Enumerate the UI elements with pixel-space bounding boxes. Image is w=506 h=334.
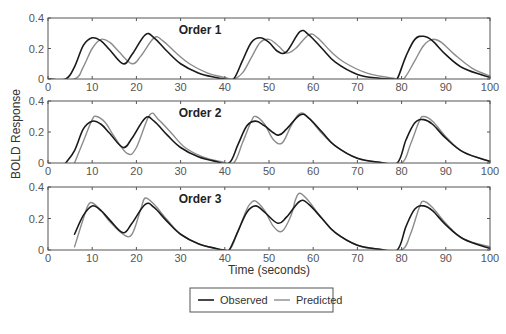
x-tick-label: 100 <box>481 252 499 264</box>
panel-2: 010203040506070809010000.20.4Order 2 <box>29 95 499 177</box>
x-tick-label: 90 <box>440 81 452 93</box>
x-tick-label: 30 <box>174 165 186 177</box>
x-tick-label: 20 <box>130 165 142 177</box>
x-tick-label: 30 <box>174 252 186 264</box>
y-tick-label: 0.2 <box>29 126 44 138</box>
series-predicted <box>48 34 490 80</box>
y-tick-label: 0.2 <box>29 43 44 55</box>
x-tick-label: 90 <box>440 252 452 264</box>
x-tick-label: 20 <box>130 252 142 264</box>
series-observed <box>75 200 490 252</box>
x-tick-label: 10 <box>86 165 98 177</box>
panel-title: Order 2 <box>179 106 222 120</box>
x-tick-label: 80 <box>395 252 407 264</box>
y-tick-label: 0.4 <box>29 95 44 107</box>
legend: Observed Predicted <box>190 288 342 312</box>
y-tick-label: 0.2 <box>29 213 44 225</box>
x-tick-label: 60 <box>307 165 319 177</box>
bold-response-chart: BOLD Response 010203040506070809010000.2… <box>0 0 506 334</box>
legend-label-observed: Observed <box>220 294 268 306</box>
x-tick-label: 80 <box>395 165 407 177</box>
x-tick-label: 70 <box>351 252 363 264</box>
x-tick-label: 10 <box>86 252 98 264</box>
legend-label-predicted: Predicted <box>296 294 342 306</box>
x-tick-label: 0 <box>45 165 51 177</box>
x-tick-label: 20 <box>130 81 142 93</box>
x-tick-label: 0 <box>45 81 51 93</box>
x-tick-label: 70 <box>351 81 363 93</box>
panel-title: Order 3 <box>179 192 222 206</box>
x-tick-label: 100 <box>481 165 499 177</box>
x-tick-label: 50 <box>263 81 275 93</box>
y-tick-label: 0.4 <box>29 181 44 193</box>
x-tick-label: 10 <box>86 81 98 93</box>
x-tick-label: 50 <box>263 165 275 177</box>
y-axis-label: BOLD Response <box>9 89 23 179</box>
axes-frame <box>48 18 490 79</box>
x-tick-label: 40 <box>219 81 231 93</box>
x-tick-label: 80 <box>395 81 407 93</box>
panel-1: 010203040506070809010000.20.4Order 1 <box>29 12 499 93</box>
series-observed <box>48 30 490 80</box>
x-tick-label: 70 <box>351 165 363 177</box>
panel-3: 010203040506070809010000.20.4Order 3 <box>29 181 499 264</box>
x-tick-label: 30 <box>174 81 186 93</box>
panels: 010203040506070809010000.20.4Order 10102… <box>29 12 499 264</box>
x-tick-label: 90 <box>440 165 452 177</box>
x-axis-label: Time (seconds) <box>228 263 310 277</box>
y-tick-label: 0.4 <box>29 12 44 24</box>
y-tick-label: 0 <box>38 157 44 169</box>
series-observed <box>66 114 490 165</box>
x-tick-label: 0 <box>45 252 51 264</box>
y-tick-label: 0 <box>38 73 44 85</box>
x-tick-label: 60 <box>307 81 319 93</box>
y-tick-label: 0 <box>38 244 44 256</box>
panel-title: Order 1 <box>179 23 222 37</box>
x-tick-label: 100 <box>481 81 499 93</box>
x-tick-label: 40 <box>219 165 231 177</box>
